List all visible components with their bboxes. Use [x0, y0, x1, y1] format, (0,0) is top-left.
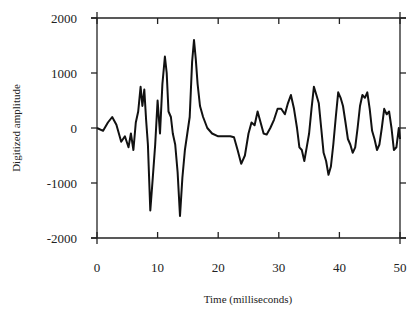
- x-tick-label: 50: [394, 260, 407, 275]
- y-tick-label: 2000: [51, 11, 77, 26]
- x-tick-label: 10: [151, 260, 164, 275]
- x-tick-label: 20: [212, 260, 225, 275]
- axes: 200010000-1000-200001020304050: [47, 11, 407, 275]
- y-tick-label: -2000: [47, 231, 77, 246]
- x-tick-label: 40: [333, 260, 346, 275]
- x-tick-label: 0: [94, 260, 101, 275]
- waveform-line: [97, 40, 400, 216]
- y-axis-title: Digitized amplitude: [10, 84, 22, 172]
- x-tick-label: 30: [272, 260, 285, 275]
- y-tick-label: -1000: [47, 176, 77, 191]
- y-tick-label: 0: [71, 121, 78, 136]
- y-tick-label: 1000: [51, 66, 77, 81]
- x-axis-title: Time (milliseconds): [204, 293, 293, 306]
- waveform-chart: 200010000-1000-200001020304050 Time (mil…: [0, 0, 418, 315]
